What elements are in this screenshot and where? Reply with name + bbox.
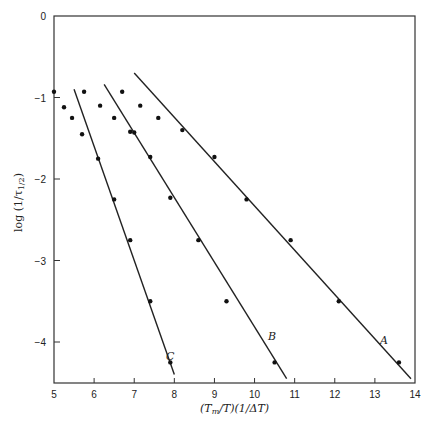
line-a-label: A [379,334,388,347]
x-tick-label: 12 [329,389,341,400]
line-c [74,89,174,374]
x-tick-label: 11 [289,389,300,400]
plot-frame [54,16,415,383]
x-tick-label: 5 [51,389,57,400]
x-axis-label: (Tm/T)(1/ΔT) [200,402,269,416]
y-tick-label: −3 [35,256,47,267]
x-tick-label: 9 [212,389,218,400]
x-tick-label: 6 [91,389,97,400]
y-tick-label: −1 [35,93,47,104]
data-points [52,90,401,365]
y-tick-label: −2 [35,174,47,185]
y-axis-ticks: 0−1−2−3−4 [35,11,60,348]
x-tick-label: 8 [172,389,178,400]
fit-lines [74,73,411,379]
line-b [104,84,287,378]
x-axis-ticks: 567891011121314 [51,378,421,400]
y-tick-label: 0 [40,11,46,22]
line-b-label: B [267,330,276,343]
y-tick-label: −4 [35,337,47,348]
x-tick-label: 13 [369,389,381,400]
line-c-label: C [166,350,175,363]
x-tick-label: 10 [249,389,261,400]
chart: 567891011121314 0−1−2−3−4 C B A (Tm/T)(1… [0,0,434,426]
x-tick-label: 7 [131,389,137,400]
y-axis-label: log (1/τ1/2) [12,173,26,232]
x-tick-label: 14 [409,389,421,400]
